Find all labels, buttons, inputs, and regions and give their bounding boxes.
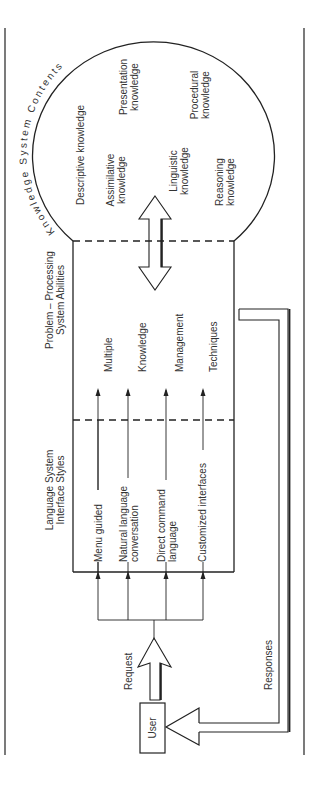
knowledge-system-circle (32, 42, 274, 241)
arrowhead-icon (126, 388, 131, 396)
knowledge-item-assimilative: Assimilativeknowledge (105, 153, 127, 206)
arrowhead-icon (164, 388, 169, 396)
arrowhead-icon (96, 388, 101, 396)
responses-label: Responses (263, 640, 274, 690)
knowledge-item-presentation: Presentationknowledge (118, 59, 140, 115)
problem-item-knowledge: Knowledge (137, 322, 148, 372)
knowledge-item-linguistic: Linguisticknowledge (168, 147, 190, 195)
responses-arrow-icon (166, 708, 199, 745)
language-section-title: Language SystemInterface Styles (44, 450, 66, 531)
problem-item-techniques: Techniques (208, 321, 219, 372)
problem-item-multiple: Multiple (103, 337, 114, 372)
user-label: User (147, 717, 158, 739)
problem-section-title: Problem – ProcessingSystem Abilities (44, 251, 66, 349)
problem-item-management: Management (174, 313, 185, 372)
diagram-canvas: Knowledge System Contents Descriptive kn… (0, 0, 323, 792)
knowledge-item-descriptive: Descriptive knowledge (75, 105, 86, 205)
knowledge-item-reasoning: Reasoningknowledge (214, 158, 236, 206)
knowledge-item-procedural: Proceduralknowledge (189, 71, 211, 120)
flow-arrows (96, 388, 206, 640)
arrowhead-icon (201, 388, 206, 396)
knowledge-items: Descriptive knowledge Assimilativeknowle… (75, 59, 236, 206)
knowledge-exchange-arrow-icon (139, 196, 171, 290)
request-arrow-icon (138, 638, 171, 700)
request-label: Request (123, 653, 134, 690)
